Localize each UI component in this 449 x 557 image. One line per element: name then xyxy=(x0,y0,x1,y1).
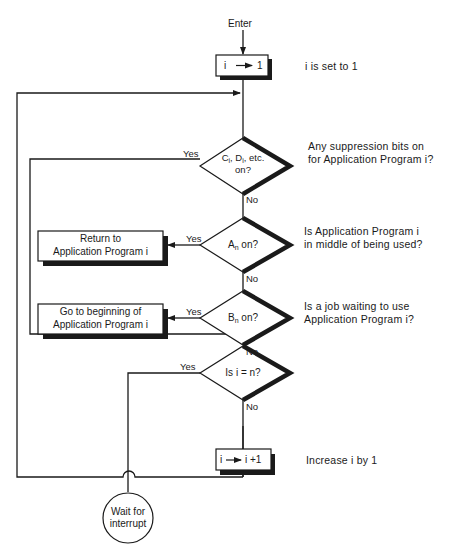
suppression-yes-label: Yes xyxy=(183,148,199,159)
suppression-note-2: for Application Program i? xyxy=(308,153,433,166)
outer-loop-line xyxy=(17,93,243,477)
init-note: i is set to 1 xyxy=(305,60,358,73)
an-note-1: Is Application Program i xyxy=(304,225,419,238)
iequaln-yes-line xyxy=(128,373,200,492)
goto-box-line2: Application Program i xyxy=(38,319,163,331)
iequaln-no-label: No xyxy=(246,401,258,412)
incr-box-var: i xyxy=(220,454,222,466)
init-box-var: i xyxy=(224,60,226,72)
bn-note-2: Application Program i? xyxy=(304,313,414,326)
bn-yes-label: Yes xyxy=(186,306,202,317)
bn-no-label: No xyxy=(246,346,258,357)
init-box-value: 1 xyxy=(257,60,263,72)
an-note-2: in middle of being used? xyxy=(304,238,423,251)
return-box-line2: Application Program i xyxy=(38,246,163,258)
suppression-decision-text-2: on? xyxy=(208,164,278,176)
return-box-line1: Return to xyxy=(38,233,163,245)
iequaln-yes-label: Yes xyxy=(180,361,196,372)
wait-line2: interrupt xyxy=(103,518,153,530)
bn-decision-text: Bn on? xyxy=(208,312,278,327)
suppression-no-label: No xyxy=(246,194,258,205)
suppression-note-1: Any suppression bits on xyxy=(308,140,424,153)
incr-box-value: i +1 xyxy=(245,454,261,466)
an-no-label: No xyxy=(246,273,258,284)
enter-label: Enter xyxy=(228,18,252,30)
flowchart-lines xyxy=(0,0,449,557)
wait-line1: Wait for xyxy=(103,506,153,518)
bn-note-1: Is a job waiting to use xyxy=(304,300,410,313)
an-decision-text: An on? xyxy=(208,239,278,254)
incr-note: Increase i by 1 xyxy=(306,454,377,467)
an-yes-label: Yes xyxy=(186,233,202,244)
iequaln-decision-text: Is i = n? xyxy=(208,367,278,379)
goto-box-line1: Go to beginning of xyxy=(38,306,163,318)
